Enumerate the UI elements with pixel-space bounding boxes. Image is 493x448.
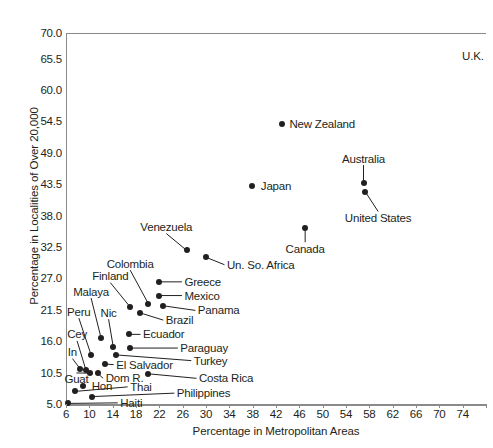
data-point-label: Japan [261,180,291,192]
x-tick-mark [159,404,160,408]
x-tick-mark [393,404,394,408]
data-point-label: Thai [130,381,152,393]
x-tick-label: 74 [456,408,468,420]
x-tick-label: 14 [106,408,118,420]
y-tick-label: 10.5 [40,367,62,379]
y-axis-title: Percentage in Localities of Over 20,000 [28,76,40,336]
data-point-label: Costa Rica [199,372,253,384]
x-axis-title: Percentage in Metropolitan Areas [66,425,486,437]
x-tick-label: 6 [63,408,69,420]
data-point-label: Australia [342,153,385,165]
x-tick-mark [136,404,137,408]
data-point[interactable] [156,279,162,285]
data-point-label: Malaya [73,286,109,298]
x-tick-mark [183,404,184,408]
x-tick-label: 62 [386,408,398,420]
data-point-label: Hon [92,380,113,392]
data-point[interactable] [156,293,162,299]
x-tick-label: 10 [83,408,95,420]
x-tick-label: 70 [433,408,445,420]
x-tick-mark [276,404,277,408]
data-point-label: Finland [92,270,128,282]
x-tick-mark [113,404,114,408]
data-point[interactable] [80,383,86,389]
x-tick-label: 66 [410,408,422,420]
data-point[interactable] [127,304,133,310]
x-tick-mark [89,404,90,408]
x-tick-label: 38 [246,408,258,420]
data-point[interactable] [127,345,133,351]
data-point[interactable] [145,371,151,377]
data-point[interactable] [72,388,78,394]
data-point[interactable] [98,335,104,341]
data-point[interactable] [362,189,368,195]
x-tick-label: 54 [340,408,352,420]
x-tick-mark [439,404,440,408]
x-tick-label: 34 [223,408,235,420]
data-point-label: Nic [101,307,117,319]
data-point[interactable] [203,254,209,260]
y-tick-label: 32.5 [40,241,62,253]
x-tick-mark [416,404,417,408]
x-tick-mark [299,404,300,408]
y-tick-label: 60.0 [40,84,62,96]
x-tick-mark [463,404,464,408]
data-point[interactable] [279,121,285,127]
data-point-label: Peru [67,306,91,318]
data-point-label: Greece [184,276,221,288]
y-tick-label: 54.5 [40,115,62,127]
x-tick-label: 18 [130,408,142,420]
data-point[interactable] [145,301,151,307]
x-tick-label: 30 [200,408,212,420]
data-point-label: Colombia [107,258,154,270]
data-point[interactable] [302,225,308,231]
x-tick-mark [66,404,67,408]
x-tick-mark [206,404,207,408]
data-point-label: Paraguay [180,342,228,354]
data-point[interactable] [249,183,255,189]
data-point-label: Brazil [166,314,194,326]
data-point[interactable] [361,180,367,186]
data-point-label: Venezuela [140,221,192,233]
scatter-chart: 5.010.516.021.527.032.538.043.549.054.56… [0,0,493,448]
y-tick-label: 16.0 [40,335,62,347]
data-point[interactable] [89,394,95,400]
data-point[interactable] [126,331,132,337]
data-point[interactable] [110,344,116,350]
data-point[interactable] [95,370,101,376]
y-tick-label: 49.0 [40,147,62,159]
y-tick-label: 5.0 [47,398,62,410]
x-tick-label: 26 [176,408,188,420]
x-tick-label: 46 [293,408,305,420]
data-point-label: United States [345,212,411,224]
data-point[interactable] [113,352,119,358]
x-tick-mark [486,404,487,408]
x-tick-mark [229,404,230,408]
y-tick-label: 43.5 [40,178,62,190]
data-point-label: U.K. [462,50,484,62]
data-point-label: Mexico [184,290,219,302]
data-point[interactable] [77,366,83,372]
data-point-label: New Zealand [289,118,355,130]
data-point[interactable] [88,352,94,358]
x-tick-label: 42 [270,408,282,420]
data-point-label: Panama [198,304,240,316]
x-tick-mark [323,404,324,408]
data-point[interactable] [184,247,190,253]
data-point-label: Ecuador [143,328,184,340]
data-point-label: Philippines [177,387,230,399]
y-tick-label: 70.0 [40,27,62,39]
data-point-label: Un. So. Africa [227,259,295,271]
data-point[interactable] [160,303,166,309]
y-tick-label: 27.0 [40,272,62,284]
x-tick-mark [346,404,347,408]
y-tick-label: 21.5 [40,304,62,316]
data-point[interactable] [102,361,108,367]
x-tick-label: 58 [363,408,375,420]
data-point-label: In [68,346,77,358]
x-tick-mark [369,404,370,408]
data-point-label: Canada [286,243,325,255]
data-point-label: Turkey [194,355,228,367]
y-tick-label: 38.0 [40,210,62,222]
data-point[interactable] [137,310,143,316]
